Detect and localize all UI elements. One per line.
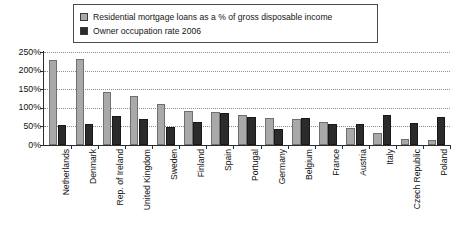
bar-group [428,52,446,145]
bar [58,125,67,145]
y-tick-label: 150% [19,85,42,94]
legend-item-mortgage: Residential mortgage loans as a % of gro… [80,10,371,23]
bar [238,115,247,145]
bar [166,127,175,145]
legend-swatch-mortgage-icon [80,13,88,21]
bar-group [373,52,391,145]
bar [139,119,148,145]
x-tick-mark [233,145,234,149]
bar-group [238,52,256,145]
x-tick-mark [152,145,153,149]
x-tick-mark [206,145,207,149]
x-tick-mark [450,145,451,149]
x-category-label: Italy [386,149,395,165]
bar [193,122,202,145]
bar [103,92,112,145]
y-tick-label: 200% [19,66,42,75]
x-category-label: United Kingdom [143,149,152,210]
bar [265,118,274,145]
bar [410,123,419,145]
bar [292,119,301,145]
bar [356,124,365,145]
bar-group [49,52,67,145]
bar-group [265,52,283,145]
y-tick-label: 100% [19,103,42,112]
x-category-label: Belgium [305,149,314,180]
y-tick-label: 50% [23,122,41,131]
x-category-label: Spain [224,149,233,171]
bar [401,139,410,145]
bar [373,133,382,145]
legend-label-owner: Owner occupation rate 2006 [93,26,201,36]
bar [184,111,193,145]
x-tick-mark [71,145,72,149]
x-tick-mark [369,145,370,149]
x-category-label: Finland [197,149,206,177]
x-axis-category-labels: NetherlandsDenmarkRep. of IrelandUnited … [44,149,450,231]
x-category-label: France [332,149,341,176]
legend-swatch-owner-icon [80,27,88,35]
x-tick-mark [261,145,262,149]
legend-item-owner: Owner occupation rate 2006 [80,24,371,37]
bar-group [292,52,310,145]
bar [85,124,94,145]
bar-group [130,52,148,145]
bar [319,122,328,145]
y-axis-tick-labels: 0%50%100%150%200%250% [0,0,41,231]
bar [130,96,139,145]
bar-group [103,52,121,145]
x-tick-mark [125,145,126,149]
bar [328,124,337,145]
x-category-label: Austria [359,149,368,176]
chart-legend: Residential mortgage loans as a % of gro… [73,4,378,43]
x-category-label: Germany [278,149,287,184]
x-category-label: Rep. of Ireland [116,149,125,205]
x-tick-mark [342,145,343,149]
bar [301,118,310,145]
x-category-label: Netherlands [62,149,71,195]
x-tick-mark [315,145,316,149]
x-category-label: Denmark [89,149,98,184]
y-tick-label: 250% [19,48,42,57]
bar [437,117,446,145]
x-category-label: Poland [440,149,449,176]
bar [49,60,58,145]
x-axis-line [43,145,450,146]
bar [157,104,166,145]
bar [211,112,220,145]
x-category-label: Sweden [170,149,179,180]
x-tick-mark [98,145,99,149]
y-tick-mark [40,145,44,146]
bar-group [346,52,364,145]
x-category-label: Czech Republic [413,149,422,209]
bar-group [401,52,419,145]
bar-group [157,52,175,145]
x-tick-mark [288,145,289,149]
bar [76,59,85,145]
bar [383,115,392,145]
bar-group [211,52,229,145]
bar [247,117,256,145]
bar [274,129,283,145]
legend-label-mortgage: Residential mortgage loans as a % of gro… [93,12,332,22]
x-category-label: Portugal [251,149,260,181]
bar [346,128,355,145]
x-tick-mark [179,145,180,149]
bar [220,113,229,145]
bar-group [184,52,202,145]
x-tick-mark [423,145,424,149]
mortgage-ownership-bar-chart: Residential mortgage loans as a % of gro… [0,0,454,231]
bar [112,116,121,145]
bar-series-container [44,52,450,145]
bar-group [319,52,337,145]
x-tick-mark [396,145,397,149]
bar [428,140,437,145]
bar-group [76,52,94,145]
